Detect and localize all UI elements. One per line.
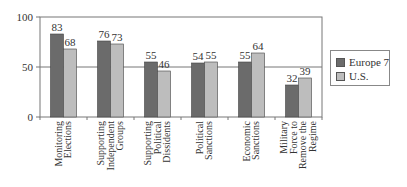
category-label: Sanctions	[250, 121, 261, 160]
bar	[299, 78, 312, 117]
legend-label-us: U.S.	[349, 70, 369, 82]
y-tick-label: 0	[28, 111, 34, 123]
data-label: 54	[193, 50, 205, 62]
bar	[205, 62, 218, 117]
bar	[192, 63, 205, 117]
bar	[158, 71, 171, 117]
bar-chart: 0501008368MonitoringElections7673Support…	[0, 0, 407, 187]
data-label: 39	[300, 65, 312, 77]
legend-item-us: U.S.	[336, 70, 369, 82]
category-label: Regime	[307, 120, 318, 152]
data-label: 73	[112, 31, 124, 43]
legend-item-europe7: Europe 7	[336, 56, 389, 68]
data-label: 55	[206, 49, 218, 61]
category-label: Groups	[114, 121, 125, 151]
data-label: 55	[240, 49, 252, 61]
bar	[239, 62, 252, 117]
data-label: 64	[253, 40, 265, 52]
category-label: Elections	[62, 121, 73, 158]
legend-label-europe7: Europe 7	[349, 56, 389, 68]
category-label: Sanctions	[203, 121, 214, 160]
bar	[111, 44, 124, 117]
data-label: 46	[159, 58, 171, 70]
data-label: 83	[52, 21, 64, 33]
bar	[51, 34, 64, 117]
data-label: 55	[146, 49, 158, 61]
bar	[98, 41, 111, 117]
bar	[64, 49, 77, 117]
legend: Europe 7 U.S.	[330, 50, 390, 86]
bar	[286, 85, 299, 117]
data-label: 76	[99, 28, 111, 40]
y-tick-label: 50	[22, 61, 34, 73]
bar	[145, 62, 158, 117]
bar	[252, 53, 265, 117]
y-tick-label: 100	[17, 11, 34, 23]
legend-swatch-us	[336, 72, 345, 81]
legend-swatch-europe7	[336, 58, 345, 67]
data-label: 32	[287, 72, 298, 84]
category-label: Dissidents	[161, 121, 172, 163]
data-label: 68	[65, 36, 77, 48]
